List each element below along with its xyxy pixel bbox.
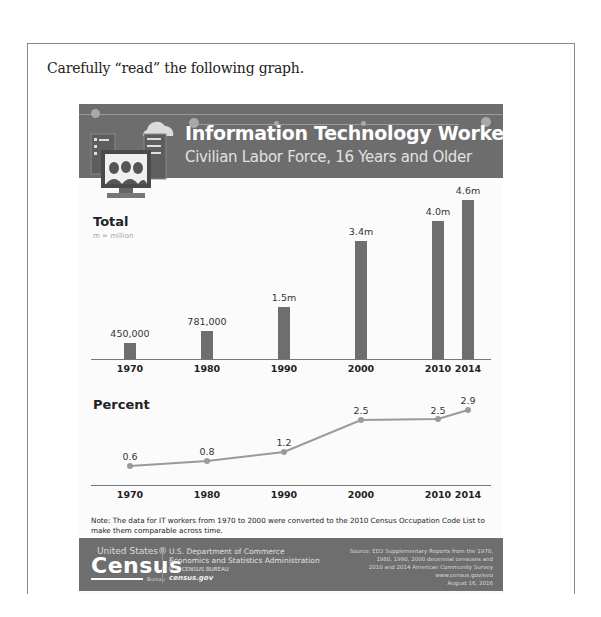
- bar-1990: [278, 307, 290, 359]
- source-line: 1980, 1990, 2000 decennial censuses and: [313, 555, 493, 563]
- bar-value-label: 1.5m: [254, 292, 314, 303]
- source-line: 2010 and 2014 American Community Survey: [313, 563, 493, 571]
- source-link[interactable]: www.census.gov/eeo: [313, 571, 493, 579]
- infographic: Information Technology Workers Civilian …: [79, 104, 503, 594]
- source-date: August 16, 2016: [313, 579, 493, 587]
- bar-value-label: 450,000: [100, 328, 160, 339]
- percent-x-axis: [91, 485, 491, 486]
- bar-value-label: 3.4m: [331, 226, 391, 237]
- bar-value-label: 4.6m: [438, 185, 498, 196]
- total-x-axis: [91, 359, 491, 360]
- census-gov-link[interactable]: census.gov: [169, 574, 320, 583]
- x-tick: 1970: [105, 363, 155, 374]
- bar-value-label: 4.0m: [408, 206, 468, 217]
- point-value-label: 0.8: [187, 446, 227, 457]
- point-value-label: 2.5: [341, 405, 381, 416]
- footer-banner: United States® Census Bureau U.S. Depart…: [79, 538, 503, 591]
- bar-1980: [201, 331, 213, 359]
- source-info: Source: EEO Supplementary Reports from t…: [313, 547, 493, 587]
- dept-line: U.S. CENSUS BUREAU: [169, 565, 320, 574]
- total-chart-title: Total: [93, 214, 129, 229]
- bar-1970: [124, 343, 136, 359]
- census-logo-underline: [91, 578, 143, 580]
- source-line: Source: EEO Supplementary Reports from t…: [313, 547, 493, 555]
- x-tick: 2014: [443, 489, 493, 500]
- x-tick: 1980: [182, 363, 232, 374]
- prompt-text: Carefully “read” the following graph.: [47, 60, 304, 76]
- department-info: U.S. Department of Commerce Economics an…: [169, 548, 320, 582]
- x-tick: 1990: [259, 489, 309, 500]
- x-tick: 2014: [443, 363, 493, 374]
- unit-note: m = million: [93, 232, 133, 240]
- infographic-title: Information Technology Workers: [185, 122, 503, 144]
- x-tick: 1980: [182, 489, 232, 500]
- point-value-label: 0.6: [110, 451, 150, 462]
- infographic-subtitle: Civilian Labor Force, 16 Years and Older: [185, 148, 472, 166]
- footer-divider: [162, 547, 163, 583]
- bar-2000: [355, 241, 367, 359]
- bar-2014: [462, 200, 474, 359]
- monitor-with-people-and-cloud-icon: [89, 112, 175, 202]
- bar-2010: [432, 221, 444, 359]
- bar-value-label: 781,000: [177, 316, 237, 327]
- x-tick: 1970: [105, 489, 155, 500]
- x-tick: 2000: [336, 489, 386, 500]
- point-value-label: 2.9: [448, 395, 488, 406]
- data-note: Note: The data for IT workers from 1970 …: [91, 516, 491, 536]
- point-value-label: 2.5: [418, 405, 458, 416]
- x-tick: 1990: [259, 363, 309, 374]
- dept-line: Economics and Statistics Administration: [169, 557, 320, 566]
- x-tick: 2000: [336, 363, 386, 374]
- point-value-label: 1.2: [264, 437, 304, 448]
